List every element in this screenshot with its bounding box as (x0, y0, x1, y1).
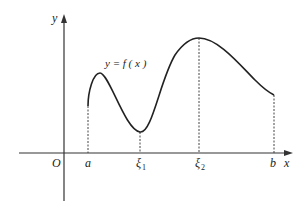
function-label: y = f ( x ) (104, 57, 147, 70)
y-axis-arrow-icon (61, 14, 67, 23)
diagram-canvas: y x O y = f ( x ) a ξ 1 ξ 2 b (0, 0, 307, 216)
point-subscript-xi2: 2 (201, 163, 205, 172)
y-axis-label: y (51, 11, 58, 25)
point-subscript-xi1: 1 (142, 163, 146, 172)
x-axis-label: x (283, 156, 290, 170)
point-label-b: b (270, 156, 276, 170)
function-curve (88, 38, 274, 132)
point-label-a: a (85, 156, 91, 170)
origin-label: O (52, 156, 61, 170)
